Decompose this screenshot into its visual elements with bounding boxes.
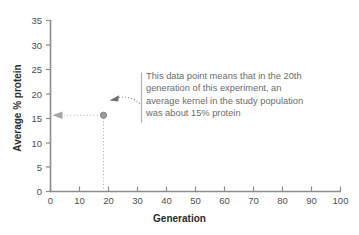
data-point-marker[interactable] <box>100 112 106 118</box>
x-tick-label-50: 50 <box>184 196 208 206</box>
y-tick-label-15: 15 <box>20 114 42 124</box>
x-tick-label-40: 40 <box>155 196 179 206</box>
chart-figure: 35 30 25 20 15 10 5 0 0 10 20 30 40 50 6… <box>0 0 359 235</box>
y-tick-label-35: 35 <box>20 16 42 26</box>
x-tick-label-30: 30 <box>126 196 150 206</box>
annotation-line-2: generation of this experiment, an <box>146 82 336 94</box>
x-tick-label-80: 80 <box>271 196 295 206</box>
annotation-text-block: This data point means that in the 20th g… <box>146 70 336 120</box>
callout-curve <box>116 97 141 103</box>
annotation-line-4: was about 15% protein <box>146 107 336 119</box>
x-tick-label-70: 70 <box>242 196 266 206</box>
x-tick-label-60: 60 <box>213 196 237 206</box>
x-tick-label-100: 100 <box>329 196 353 206</box>
y-tick-label-10: 10 <box>20 139 42 149</box>
y-axis-title: Average % protein <box>13 38 23 178</box>
x-tick-label-90: 90 <box>300 196 324 206</box>
callout-arrowhead-icon <box>110 95 120 101</box>
x-axis-title: Generation <box>0 214 359 224</box>
annotation-line-1: This data point means that in the 20th <box>146 70 336 82</box>
y-tick-label-20: 20 <box>20 90 42 100</box>
y-axis-arrowhead-icon <box>53 111 63 119</box>
x-tick-label-20: 20 <box>97 196 121 206</box>
y-tick-label-25: 25 <box>20 65 42 75</box>
x-tick-label-10: 10 <box>68 196 92 206</box>
y-tick-label-5: 5 <box>20 163 42 173</box>
y-tick-label-30: 30 <box>20 41 42 51</box>
annotation-line-3: average kernel in the study population <box>146 95 336 107</box>
x-tick-label-0: 0 <box>39 196 63 206</box>
